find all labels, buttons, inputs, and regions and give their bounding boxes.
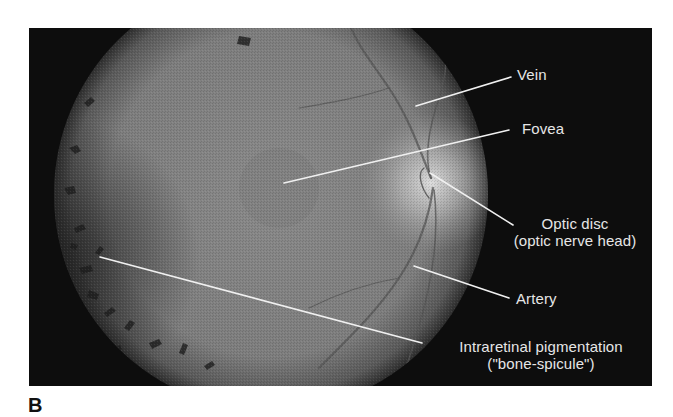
label-fovea: Fovea	[522, 120, 564, 137]
label-optic-disc: Optic disc (optic nerve head)	[499, 215, 651, 249]
label-pigmentation: Intraretinal pigmentation ("bone-spicule…	[430, 338, 652, 372]
fundus-photograph: Vein Fovea Optic disc (optic nerve head)…	[29, 28, 652, 386]
fundus-image	[29, 28, 652, 386]
label-vein: Vein	[517, 66, 547, 83]
label-pigmentation-line1: Intraretinal pigmentation	[430, 338, 652, 355]
photo-grain	[29, 28, 652, 386]
panel-letter: B	[28, 394, 42, 416]
label-artery: Artery	[516, 290, 557, 307]
label-optic-disc-line2: (optic nerve head)	[499, 232, 651, 249]
label-optic-disc-line1: Optic disc	[499, 215, 651, 232]
label-pigmentation-line2: ("bone-spicule")	[430, 355, 652, 372]
